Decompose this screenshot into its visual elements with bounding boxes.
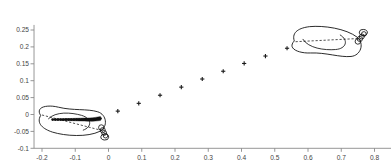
x-tick-label: 0.3 <box>204 154 213 161</box>
stance-track-point <box>91 118 94 121</box>
y-axis-ticks: -0.1-0.0500.050.10.150.20.25 <box>14 26 34 151</box>
stance-track-point <box>94 118 97 121</box>
x-tick-label: 0.8 <box>370 154 379 161</box>
series-left-foot-stance-track <box>51 117 102 122</box>
stance-track-point <box>81 118 84 121</box>
stance-track-point <box>78 118 81 121</box>
y-tick-label: 0.1 <box>20 77 29 84</box>
x-tick-label: -0.2 <box>36 154 48 161</box>
y-tick-label: 0.05 <box>16 94 29 101</box>
foot-sole-outline <box>37 105 106 138</box>
stance-track-point <box>73 118 76 121</box>
stance-track-point <box>57 118 60 121</box>
stance-track-point <box>75 118 78 121</box>
stance-track-point <box>86 118 89 121</box>
stance-track-point <box>62 118 65 121</box>
x-tick-label: 0.2 <box>170 154 179 161</box>
stance-track-point <box>70 118 73 121</box>
y-tick-label: -0.1 <box>18 145 30 152</box>
left-foot-outline <box>37 105 111 140</box>
x-tick-label: 0.4 <box>237 154 246 161</box>
chart-canvas: -0.2-0.100.10.20.30.40.50.60.70.8-0.1-0.… <box>0 0 391 168</box>
x-tick-label: 0.7 <box>337 154 346 161</box>
y-tick-label: 0.15 <box>16 60 29 67</box>
x-tick-label: 0 <box>107 154 111 161</box>
foot-sole-outline <box>291 23 363 59</box>
x-tick-label: 0.5 <box>270 154 279 161</box>
stance-track-point <box>51 118 54 121</box>
y-tick-label: 0 <box>25 111 29 118</box>
stance-track-point <box>67 118 70 121</box>
stance-track-point <box>89 118 92 121</box>
foot-big-toe-circle <box>359 29 368 36</box>
x-tick-label: 0.6 <box>303 154 312 161</box>
stance-track-point <box>99 117 102 120</box>
y-tick-label: -0.05 <box>14 128 29 135</box>
foot-long-axis <box>296 31 360 49</box>
stance-track-point <box>65 118 68 121</box>
stance-track-point <box>83 118 86 121</box>
stance-track-point <box>54 118 57 121</box>
x-axis-ticks: -0.2-0.100.10.20.30.40.50.60.70.8 <box>36 148 379 161</box>
axes <box>34 25 391 148</box>
x-tick-label: -0.1 <box>70 154 82 161</box>
right-foot-outline <box>291 21 367 59</box>
y-tick-label: 0.2 <box>20 43 29 50</box>
series-centre-of-pressure-trajectory <box>116 46 289 113</box>
y-tick-label: 0.25 <box>16 26 29 33</box>
x-tick-label: 0.1 <box>137 154 146 161</box>
scatter-plot-figure: -0.2-0.100.10.20.30.40.50.60.70.8-0.1-0.… <box>0 0 391 168</box>
stance-track-point <box>97 118 100 121</box>
stance-track-point <box>59 118 62 121</box>
